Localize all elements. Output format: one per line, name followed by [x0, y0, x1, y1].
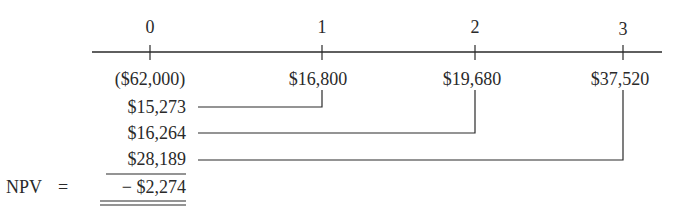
present-value-3: $28,189: [128, 149, 187, 169]
cash-flow-2: $19,680: [443, 69, 502, 89]
npv-equals: =: [58, 177, 68, 197]
discount-connector-2: [198, 90, 475, 133]
cash-flow-1: $16,800: [289, 69, 348, 89]
npv-value: − $2,274: [122, 177, 186, 197]
period-label-0: 0: [146, 17, 155, 37]
discount-connector-1: [198, 90, 322, 107]
npv-label: NPV: [6, 177, 42, 197]
period-label-1: 1: [318, 17, 327, 37]
period-label-3: 3: [619, 19, 628, 39]
present-value-1: $15,273: [128, 97, 187, 117]
present-value-2: $16,264: [128, 123, 187, 143]
cash-flow-0: ($62,000): [115, 69, 186, 89]
period-label-2: 2: [471, 17, 480, 37]
timeline-lines: [0, 0, 680, 221]
discount-connector-3: [198, 90, 623, 160]
cash-flow-3: $37,520: [591, 69, 650, 89]
